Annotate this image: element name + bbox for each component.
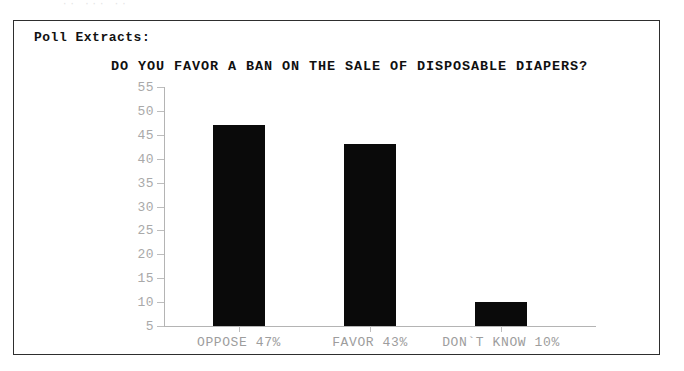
- poll-extracts-panel: Poll Extracts: DO YOU FAVOR A BAN ON THE…: [13, 20, 660, 355]
- x-axis-tick-label: FAVOR 43%: [332, 335, 408, 350]
- y-axis-tick-label: 10: [137, 295, 154, 310]
- y-axis-tick-label: 45: [137, 127, 154, 142]
- y-axis-tick-label: 15: [137, 271, 154, 286]
- y-axis-tick-mark: [157, 278, 164, 279]
- bar-chart-plot-area: 555045403530252015105 OPPOSE 47%FAVOR 43…: [164, 87, 596, 326]
- x-axis-tick-mark: [370, 326, 371, 332]
- panel-heading: Poll Extracts:: [34, 30, 150, 45]
- x-axis-tick-label: DON`T KNOW 10%: [442, 335, 560, 350]
- chart-title: DO YOU FAVOR A BAN ON THE SALE OF DISPOS…: [111, 59, 588, 74]
- x-axis-tick-mark: [501, 326, 502, 332]
- y-axis-tick-mark: [157, 87, 164, 88]
- y-axis-tick-label: 50: [137, 103, 154, 118]
- y-axis-tick-mark: [157, 302, 164, 303]
- y-axis-tick-mark: [157, 135, 164, 136]
- x-axis-tick-mark: [239, 326, 240, 332]
- x-axis-tick-label: OPPOSE 47%: [197, 335, 281, 350]
- y-axis-tick-label: 25: [137, 223, 154, 238]
- y-axis-tick-label: 40: [137, 151, 154, 166]
- y-axis-tick-mark: [157, 111, 164, 112]
- y-axis-tick-mark: [157, 207, 164, 208]
- y-axis-tick-mark: [157, 326, 164, 327]
- y-axis-tick-label: 30: [137, 199, 154, 214]
- y-axis-tick-mark: [157, 230, 164, 231]
- y-axis-tick-mark: [157, 159, 164, 160]
- y-axis-tick-label: 35: [137, 175, 154, 190]
- scan-artifact-text: ·· ··· ··: [62, 0, 129, 9]
- bar: [344, 144, 396, 326]
- y-axis-tick-mark: [157, 254, 164, 255]
- bar: [213, 125, 265, 326]
- y-axis-tick-label: 20: [137, 247, 154, 262]
- y-axis-tick-label: 5: [146, 319, 154, 334]
- y-axis-tick-label: 55: [137, 80, 154, 95]
- y-axis-tick-mark: [157, 183, 164, 184]
- x-axis-line: [164, 326, 596, 327]
- bar: [475, 302, 527, 326]
- y-axis-line: [164, 87, 165, 326]
